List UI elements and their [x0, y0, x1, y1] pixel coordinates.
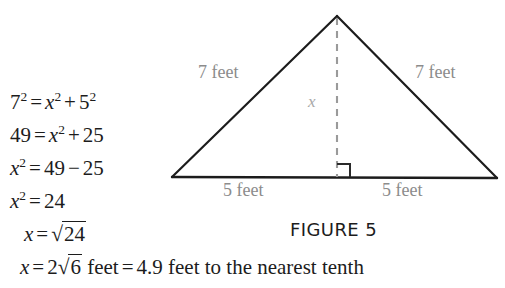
eq3-equals: = — [26, 156, 44, 180]
final-unit-1: feet — [87, 255, 118, 279]
final-equals-1: = — [29, 255, 47, 279]
final-radical: √6 — [58, 255, 82, 279]
equation-line-5: x=√24 — [10, 218, 190, 251]
eq5-variable: x — [24, 222, 33, 246]
eq1-rhs-base: 5 — [79, 90, 90, 114]
triangle-right-side — [337, 16, 497, 178]
eq2-variable: x — [49, 123, 58, 147]
final-value: 4.9 — [137, 255, 163, 279]
label-height: x — [308, 92, 316, 112]
triangle-base — [172, 177, 497, 178]
final-radicand: 6 — [68, 254, 82, 279]
eq3-minus: − — [65, 156, 83, 180]
eq2-lhs: 49 — [10, 123, 31, 147]
equation-list: 72=x2+52 49=x2+25 x2=49−25 x2=24 x=√24 — [10, 86, 190, 251]
label-base-left: 5 feet — [223, 180, 263, 201]
label-base-right: 5 feet — [382, 180, 422, 201]
right-angle-marker — [337, 164, 350, 177]
final-equals-2: = — [119, 255, 137, 279]
eq3-operand-a: 49 — [44, 156, 65, 180]
eq5-radicand: 24 — [62, 221, 86, 246]
eq2-plus: + — [65, 123, 83, 147]
label-left-side: 7 feet — [198, 62, 238, 83]
eq2-rhs: 25 — [83, 123, 104, 147]
eq1-variable: x — [45, 90, 54, 114]
eq2-variable-exponent: 2 — [58, 122, 65, 137]
eq1-lhs-base: 7 — [10, 90, 21, 114]
eq5-equals: = — [33, 222, 51, 246]
eq4-equals: = — [26, 189, 44, 213]
final-coefficient: 2 — [47, 255, 58, 279]
eq1-equals: = — [27, 90, 45, 114]
final-answer-line: x=2√6 feet=4.9 feet to the nearest tenth — [10, 251, 364, 284]
eq1-plus: + — [61, 90, 79, 114]
figure-caption: FIGURE 5 — [290, 219, 377, 240]
eq2-equals: = — [31, 123, 49, 147]
equation-line-3: x2=49−25 — [10, 152, 190, 185]
eq5-radical: √24 — [51, 222, 86, 246]
final-unit-2: feet — [168, 255, 199, 279]
equation-line-1: 72=x2+52 — [10, 86, 190, 119]
eq1-rhs-exponent: 2 — [89, 89, 96, 104]
eq3-operand-b: 25 — [83, 156, 104, 180]
eq3-variable: x — [10, 156, 19, 180]
final-qualifier: to the nearest tenth — [205, 255, 364, 279]
eq4-variable: x — [10, 189, 19, 213]
equation-line-2: 49=x2+25 — [10, 119, 190, 152]
equation-line-4: x2=24 — [10, 185, 190, 218]
eq4-rhs: 24 — [44, 189, 65, 213]
label-right-side: 7 feet — [415, 62, 455, 83]
final-variable: x — [20, 255, 29, 279]
figure-page: 72=x2+52 49=x2+25 x2=49−25 x2=24 x=√24 x… — [0, 0, 505, 288]
